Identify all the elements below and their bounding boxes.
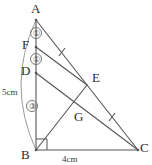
measurement-label-ab: 5cm xyxy=(2,88,18,97)
vertex-label-E: E xyxy=(92,71,100,84)
vertex-label-C: C xyxy=(140,141,149,154)
ratio-mark-db: ③ xyxy=(26,100,38,112)
vertex-label-F: F xyxy=(22,38,29,51)
geometry-figure: A F D B C E G ① ① ③ 5cm 4cm xyxy=(0,0,152,165)
vertex-point-A xyxy=(35,19,38,22)
measurement-label-bc: 4cm xyxy=(62,155,78,164)
vertex-point-C xyxy=(137,149,140,152)
figure-canvas xyxy=(0,0,152,165)
vertex-label-A: A xyxy=(31,2,40,15)
vertex-point-B xyxy=(35,149,38,152)
tick-AE xyxy=(59,48,65,56)
vertex-point-F xyxy=(35,46,38,49)
vertex-label-D: D xyxy=(21,64,30,77)
ratio-mark-fd: ① xyxy=(30,53,42,65)
vertex-label-B: B xyxy=(21,148,30,161)
segments-group xyxy=(36,20,138,150)
vertex-label-G: G xyxy=(74,110,83,123)
ratio-mark-af: ① xyxy=(30,27,42,39)
vertex-point-D xyxy=(35,72,38,75)
